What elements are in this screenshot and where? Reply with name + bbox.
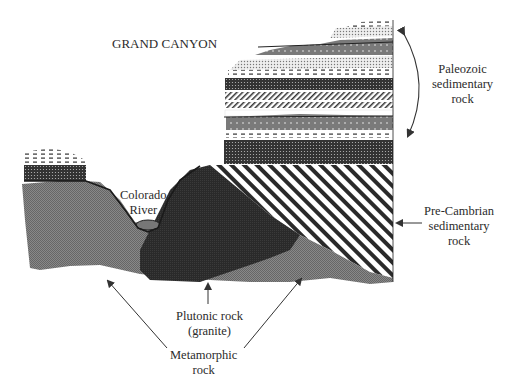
grand-canyon-diagram: GRAND CANYON Paleozoic sedimentary rock … — [0, 0, 509, 390]
paleozoic-bracket-arrow — [404, 34, 419, 136]
left-rim-layers — [24, 148, 86, 181]
colorado-river-label: Colorado River — [120, 188, 167, 218]
paleozoic-layers — [224, 20, 393, 164]
precambrian-label: Pre-Cambrian sedimentary rock — [424, 204, 494, 249]
diagram-title: GRAND CANYON — [112, 36, 217, 51]
cross-section-svg — [0, 0, 509, 390]
metamorphic-arrow-left — [108, 281, 167, 348]
plutonic-label: Plutonic rock (granite) — [176, 309, 243, 339]
metamorphic-label: Metamorphic rock — [170, 348, 237, 378]
paleozoic-label: Paleozoic sedimentary rock — [432, 62, 493, 107]
metamorphic-arrow-right — [244, 279, 301, 348]
